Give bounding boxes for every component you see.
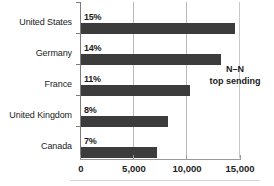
bar-canada[interactable] <box>80 147 157 158</box>
x-tick-0 <box>80 155 81 160</box>
category-label-united-states: United States <box>0 17 72 27</box>
data-label-united-states: 15% <box>84 12 101 22</box>
x-tick-label-15000: 15,000 <box>225 163 254 174</box>
x-tick-label-10000: 10,000 <box>172 163 201 174</box>
x-tick-15000 <box>240 155 241 160</box>
category-tick-4 <box>76 126 80 127</box>
bar-france[interactable] <box>80 85 190 96</box>
bottom-rule <box>70 180 260 181</box>
x-axis-line <box>80 159 241 160</box>
value-axis-line <box>80 2 81 159</box>
category-tick-1 <box>76 33 80 34</box>
data-label-france: 11% <box>84 74 101 84</box>
category-tick-3 <box>76 95 80 96</box>
data-label-canada: 7% <box>84 136 97 146</box>
data-label-germany: 14% <box>84 43 101 53</box>
x-tick-label-5000: 5,000 <box>122 163 146 174</box>
category-label-france: France <box>0 79 72 89</box>
category-label-germany: Germany <box>0 48 72 58</box>
bar-united-kingdom[interactable] <box>80 116 168 127</box>
category-tick-2 <box>76 64 80 65</box>
chart-annotation: N–N top sending <box>196 63 274 87</box>
category-tick-0 <box>76 2 80 3</box>
category-axis-labels: United States Germany France United King… <box>0 0 76 160</box>
x-tick-10000 <box>186 155 187 160</box>
category-label-canada: Canada <box>0 141 72 151</box>
x-tick-label-0: 0 <box>78 163 83 174</box>
category-label-united-kingdom: United Kingdom <box>0 110 72 120</box>
bar-united-states[interactable] <box>80 23 235 34</box>
x-tick-5000 <box>133 155 134 160</box>
data-label-united-kingdom: 8% <box>84 105 97 115</box>
bar-chart: United States Germany France United King… <box>0 0 274 186</box>
annotation-line-1: N–N <box>196 63 274 75</box>
annotation-line-2: top sending <box>196 75 274 87</box>
